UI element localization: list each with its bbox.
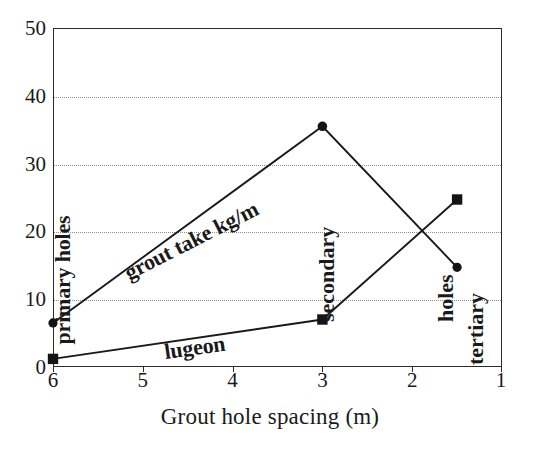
x-axis: 6 5 4 3 2 1 xyxy=(53,370,502,400)
y-tick-label-50: 50 xyxy=(2,18,46,39)
y-tick-label-40: 40 xyxy=(2,85,46,106)
x-tick-label-2: 2 xyxy=(392,370,432,391)
x-tick-label-4: 4 xyxy=(213,370,253,391)
y-tick-label-20: 20 xyxy=(2,221,46,242)
x-tick-label-6: 6 xyxy=(33,370,73,391)
chart-figure: 50 40 30 20 10 0 6 5 4 3 2 1 Grout hole … xyxy=(0,0,540,450)
x-tick-label-1: 1 xyxy=(481,370,521,391)
y-tick-label-10: 10 xyxy=(2,289,46,310)
gridline-20 xyxy=(54,232,501,233)
x-tick-label-3: 3 xyxy=(302,370,342,391)
gridline-40 xyxy=(54,97,501,98)
gridline-30 xyxy=(54,165,501,166)
y-axis: 50 40 30 20 10 0 xyxy=(0,28,46,367)
x-tick-label-5: 5 xyxy=(123,370,163,391)
x-axis-title: Grout hole spacing (m) xyxy=(0,404,540,430)
annotation-primary-holes: primary holes xyxy=(52,216,74,345)
y-tick-label-30: 30 xyxy=(2,153,46,174)
